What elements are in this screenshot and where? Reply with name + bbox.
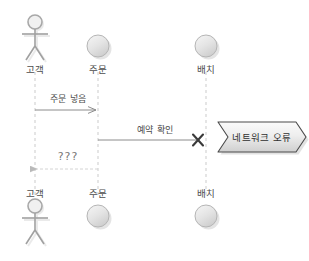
- lifeline-label-customer-bottom: 고객: [26, 186, 44, 200]
- lifeline-label-batch-bottom: 배치: [197, 186, 215, 200]
- lifeline-label-order-bottom: 주문: [89, 186, 107, 200]
- object-sphere-icon-batch-top: [195, 35, 220, 60]
- object-sphere-icon-order-top: [87, 35, 112, 60]
- network-error-callout-label: 네트워크 오류: [232, 130, 291, 144]
- lifeline-label-batch-top: 배치: [197, 62, 215, 76]
- message-label-unknown-return: ???: [58, 150, 79, 163]
- actor-stick-figure-icon-bottom: [22, 199, 50, 246]
- message-label-confirm-reservation: 예약 확인: [137, 123, 173, 136]
- actor-stick-figure-icon-top: [22, 15, 50, 62]
- object-sphere-icon-order-bottom: [87, 205, 112, 230]
- lifeline-label-order-top: 주문: [89, 62, 107, 76]
- sequence-diagram-canvas: 고객 주문 배치 주문 넣음 예약 확인 ??? 네트워크 오류 고객 주문 배…: [0, 0, 309, 261]
- object-sphere-icon-batch-bottom: [195, 205, 220, 230]
- lifeline-label-customer-top: 고객: [26, 62, 44, 76]
- message-label-place-order: 주문 넣음: [50, 92, 86, 105]
